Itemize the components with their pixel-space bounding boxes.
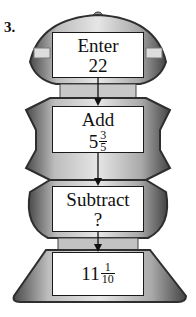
add-label: Add — [53, 110, 143, 130]
result-value-denominator: 10 — [101, 274, 115, 285]
subtract-value: ? — [53, 210, 143, 230]
add-value-fraction: 35 — [99, 130, 107, 153]
enter-label: Enter — [53, 36, 143, 56]
subtract-box: Subtract ? — [52, 186, 144, 232]
result-value-fraction: 110 — [101, 262, 115, 285]
enter-box: Enter 22 — [52, 32, 144, 78]
add-value: 535 — [53, 130, 143, 153]
result-box: 11110 — [52, 252, 144, 296]
result-value-whole: 11 — [81, 263, 99, 284]
add-box: Add 535 — [52, 106, 144, 153]
add-value-whole: 5 — [89, 131, 99, 152]
enter-value: 22 — [53, 56, 143, 76]
add-value-denominator: 5 — [99, 142, 107, 153]
subtract-label: Subtract — [53, 190, 143, 210]
